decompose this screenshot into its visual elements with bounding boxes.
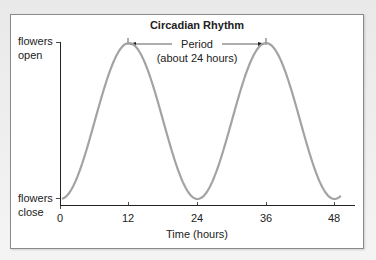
rhythm-curve — [63, 43, 340, 199]
y-label-top-line1: flowers — [18, 35, 53, 47]
x-tick-label-0: 0 — [57, 212, 63, 224]
x-tick-label-48: 48 — [328, 212, 340, 224]
y-label-top-line2: open — [18, 49, 42, 61]
x-tick-label-24: 24 — [191, 212, 203, 224]
period-sublabel: (about 24 hours) — [157, 52, 238, 64]
chart-title: Circadian Rhythm — [150, 19, 244, 31]
x-axis-label: Time (hours) — [166, 228, 228, 240]
period-annotation: Period (about 24 hours) — [128, 38, 266, 64]
y-label-bottom-line1: flowers — [18, 192, 53, 204]
chart-svg: Circadian Rhythm Period (about 24 hours)… — [0, 0, 376, 260]
period-label: Period — [181, 38, 213, 50]
x-tick-label-12: 12 — [122, 212, 134, 224]
y-label-bottom-line2: close — [18, 206, 44, 218]
x-tick-label-36: 36 — [260, 212, 272, 224]
